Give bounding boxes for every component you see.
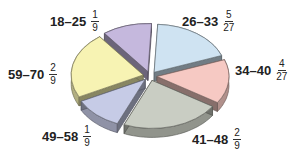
label-34-40: 34–40 427 [235, 59, 287, 82]
label-fraction: 19 [91, 10, 99, 33]
label-fraction: 19 [83, 125, 91, 148]
label-49-58: 49–58 19 [42, 125, 91, 148]
label-range: 18–25 [50, 14, 86, 29]
label-range: 41–48 [192, 132, 228, 147]
label-range: 26–33 [182, 14, 218, 29]
label-fraction: 427 [276, 59, 287, 82]
label-range: 49–58 [42, 129, 78, 144]
label-41-48: 41–48 29 [192, 128, 241, 151]
label-fraction: 29 [233, 128, 241, 151]
label-fraction: 527 [223, 10, 234, 33]
label-range: 59–70 [8, 67, 44, 82]
label-range: 34–40 [235, 63, 271, 78]
label-59-70: 59–70 29 [8, 63, 57, 86]
label-fraction: 29 [49, 63, 57, 86]
label-18-25: 18–25 19 [50, 10, 99, 33]
label-26-33: 26–33 527 [182, 10, 234, 33]
